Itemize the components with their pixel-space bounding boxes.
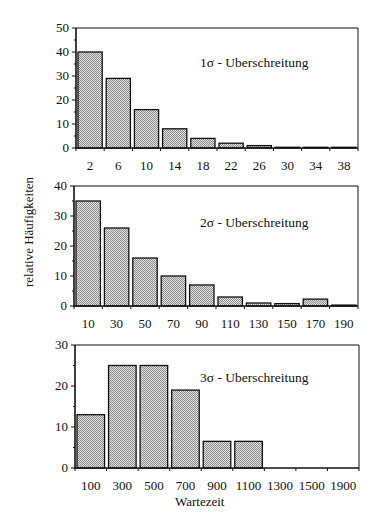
- bar: [134, 110, 158, 148]
- x-tick-label: 700: [176, 478, 196, 493]
- x-tick-label: 10: [82, 316, 95, 331]
- x-tick-label: 100: [81, 478, 101, 493]
- bar: [77, 415, 105, 468]
- bar: [76, 201, 100, 306]
- bar: [190, 285, 214, 306]
- x-tick-label: 1100: [236, 478, 262, 493]
- x-tick-label: 18: [196, 158, 209, 173]
- x-tick-label: 300: [113, 478, 133, 493]
- x-tick-label: 2: [87, 158, 94, 173]
- x-tick-label: 90: [195, 316, 208, 331]
- bar: [104, 228, 128, 306]
- y-tick-label: 20: [56, 92, 69, 107]
- x-tick-label: 30: [281, 158, 294, 173]
- x-tick-label: 14: [168, 158, 182, 173]
- x-tick-label: 6: [115, 158, 122, 173]
- y-tick-label: 20: [55, 378, 68, 393]
- x-tick-label: 70: [167, 316, 180, 331]
- bar: [172, 390, 200, 468]
- bar: [161, 276, 185, 306]
- y-tick-label: 40: [56, 44, 69, 59]
- x-tick-label: 26: [253, 158, 267, 173]
- x-tick-label: 150: [277, 316, 297, 331]
- x-tick-label: 30: [110, 316, 123, 331]
- y-tick-label: 0: [62, 460, 69, 475]
- x-tick-label: 130: [249, 316, 269, 331]
- bar: [218, 297, 242, 306]
- bar: [163, 129, 187, 148]
- x-tick-label: 50: [139, 316, 152, 331]
- y-tick-label: 10: [56, 116, 69, 131]
- y-tick-label: 0: [61, 298, 68, 313]
- y-tick-label: 30: [55, 337, 68, 352]
- x-tick-label: 500: [144, 478, 164, 493]
- y-tick-label: 20: [54, 238, 67, 253]
- x-tick-label: 1500: [299, 478, 325, 493]
- chart-1sigma: 010203040502610141822263034381σ - Ubersc…: [56, 20, 358, 173]
- chart-2sigma: 01020304010305070901101301501701902σ - U…: [54, 178, 358, 331]
- y-tick-label: 10: [55, 419, 68, 434]
- x-tick-label: 170: [306, 316, 326, 331]
- x-tick-label: 1300: [267, 478, 293, 493]
- y-tick-label: 0: [63, 140, 70, 155]
- bar: [106, 78, 130, 148]
- y-axis-label: relative Häufigkeiten: [21, 167, 37, 297]
- x-tick-label: 190: [334, 316, 354, 331]
- x-tick-label: 38: [337, 158, 350, 173]
- chart-title: 2σ - Uberschreitung: [200, 215, 309, 230]
- x-tick-label: 900: [207, 478, 227, 493]
- bar: [191, 138, 215, 148]
- y-tick-label: 10: [54, 268, 67, 283]
- bar: [78, 52, 102, 148]
- y-tick-label: 30: [56, 68, 69, 83]
- x-tick-label: 110: [221, 316, 240, 331]
- x-tick-label: 22: [225, 158, 238, 173]
- histogram-figure: 010203040502610141822263034381σ - Ubersc…: [0, 0, 377, 526]
- x-tick-label: 10: [140, 158, 153, 173]
- chart-3sigma: 010203010030050070090011001300150019003σ…: [55, 337, 359, 493]
- x-tick-label: 34: [309, 158, 323, 173]
- bar: [109, 366, 137, 469]
- chart-title: 1σ - Uberschreitung: [200, 55, 309, 70]
- y-tick-label: 50: [56, 20, 69, 35]
- bar: [235, 441, 263, 468]
- bar: [140, 366, 168, 469]
- x-tick-label: 1900: [330, 478, 356, 493]
- bar: [303, 299, 327, 306]
- x-axis-label: Wartezeit: [175, 494, 224, 510]
- bar: [203, 441, 231, 468]
- y-tick-label: 30: [54, 208, 67, 223]
- chart-title: 3σ - Uberschreitung: [200, 370, 309, 385]
- bar: [133, 258, 157, 306]
- y-tick-label: 40: [54, 178, 67, 193]
